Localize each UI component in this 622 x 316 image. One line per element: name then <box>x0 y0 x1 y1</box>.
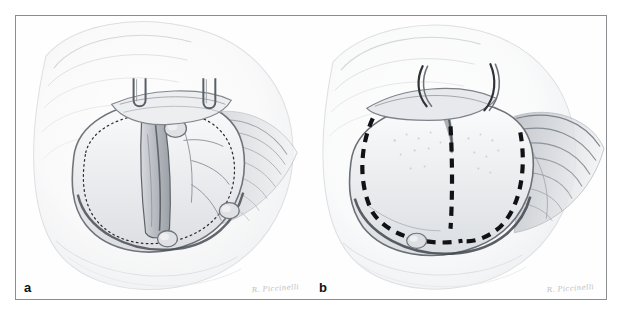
panel-b-label: b <box>319 281 327 294</box>
figure-frame: a R. Piccinelli <box>15 15 607 300</box>
panel-a-illustration <box>16 16 311 299</box>
figure-root: a R. Piccinelli <box>0 0 622 316</box>
panel-a: a R. Piccinelli <box>16 16 311 299</box>
panel-b-nodule <box>407 233 427 248</box>
panel-b: b R. Piccinelli <box>311 16 606 299</box>
panel-b-illustration <box>311 16 606 299</box>
panel-a-central-tissue-strip <box>141 118 170 237</box>
panel-a-label: a <box>24 281 31 294</box>
